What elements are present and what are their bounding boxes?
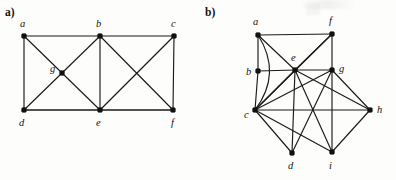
edge-g-b [62,36,100,73]
edge-c-d [255,110,292,153]
vertex-label-a: a [20,18,25,29]
vertex-label-c: c [171,18,176,29]
graph-a-canvas: abcgdef [0,0,198,180]
vertex-f [171,108,176,113]
edge-a-f [258,34,332,35]
vertex-b [98,34,103,39]
edge-a-e [258,35,295,70]
vertex-d [22,108,27,113]
vertex-label-d: d [288,160,294,171]
vertex-label-g: g [50,63,55,74]
vertex-label-c: c [244,109,249,120]
panel-a: a) abcgdef [0,0,198,180]
vertex-label-b: b [96,18,101,29]
edge-e-d [292,70,295,153]
vertex-label-f: f [171,117,176,128]
vertex-h [368,108,373,113]
edge-b-c [255,71,258,110]
edge-a-g [24,36,62,73]
vertex-g [60,71,65,76]
vertex-label-h: h [377,104,382,115]
vertex-label-e: e [291,52,296,63]
vertex-f [330,32,335,37]
vertex-c [172,34,177,39]
vertex-label-a: a [253,16,258,27]
vertex-d [290,151,295,156]
vertex-e [293,68,298,73]
vertex-label-e: e [96,117,101,128]
vertex-label-g: g [339,63,344,74]
vertex-a [256,33,261,38]
vertex-e [98,108,103,113]
figure-root: a) abcgdef b) afbegchdi [0,0,396,180]
vertex-a [22,34,27,39]
vertex-i [330,150,335,155]
vertex-label-f: f [329,15,334,26]
vertex-label-b: b [246,66,251,77]
edge-g-e [62,73,100,110]
vertex-b [256,69,261,74]
edge-c-f [173,36,174,110]
vertex-g [330,68,335,73]
edge-i-h [332,110,370,152]
edge-d-g [24,73,62,110]
vertex-label-i: i [329,160,332,171]
edge-g-h [332,70,370,110]
edge-e-c [255,70,295,110]
graph-b-canvas: afbegchdi [198,0,396,180]
panel-b: b) afbegchdi [198,0,396,180]
vertex-c [253,108,258,113]
vertex-label-d: d [19,117,25,128]
edge-b-e [258,70,295,71]
